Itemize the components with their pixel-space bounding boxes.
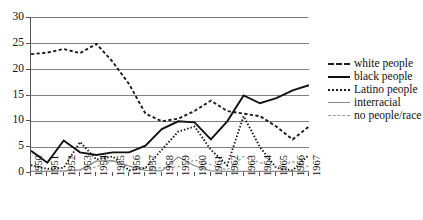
y-tick-label: 10 xyxy=(2,114,24,125)
legend-item-black-people[interactable]: black people xyxy=(328,69,423,82)
legend-item-interracial[interactable]: interracial xyxy=(328,96,423,109)
x-tick-label: 1962 xyxy=(230,155,241,176)
legend-item-label: black people xyxy=(354,70,412,82)
x-tick-mark xyxy=(144,172,145,176)
y-tick-label: 0 xyxy=(2,166,24,177)
x-tick-mark xyxy=(112,172,113,176)
x-tick-mark xyxy=(46,172,47,176)
x-tick-label: 1952 xyxy=(67,155,78,176)
x-tick-mark xyxy=(210,172,211,176)
x-tick-mark xyxy=(79,172,80,176)
x-tick-label: 1960 xyxy=(198,155,209,176)
x-tick-label: 1964 xyxy=(263,155,274,176)
chart-figure: 051015202530 195019511952195319541955195… xyxy=(0,0,423,220)
x-tick-mark xyxy=(128,172,129,176)
x-tick-mark xyxy=(95,172,96,176)
x-tick-label: 1950 xyxy=(34,155,45,176)
plot-svg xyxy=(31,18,309,173)
x-tick-label: 1965 xyxy=(279,155,290,176)
legend-item-no-people-race[interactable]: no people/race xyxy=(328,109,423,122)
x-tick-label: 1966 xyxy=(296,155,307,176)
x-tick-mark xyxy=(308,172,309,176)
x-tick-label: 1959 xyxy=(181,155,192,176)
x-tick-label: 1963 xyxy=(247,155,258,176)
legend-line-swatch-icon xyxy=(328,96,350,108)
x-tick-mark xyxy=(259,172,260,176)
y-tick-label: 5 xyxy=(2,140,24,151)
legend-item-label: interracial xyxy=(354,96,401,108)
x-tick-mark xyxy=(243,172,244,176)
y-tick-label: 15 xyxy=(2,89,24,100)
legend-item-label: white people xyxy=(354,57,413,69)
legend-item-label: no people/race xyxy=(354,109,421,121)
x-tick-label: 1951 xyxy=(50,155,61,176)
x-tick-mark xyxy=(292,172,293,176)
legend-item-label: Latino people xyxy=(354,83,418,95)
x-tick-label: 1956 xyxy=(132,155,143,176)
x-tick-mark xyxy=(30,172,31,176)
y-tick-label: 25 xyxy=(2,37,24,48)
x-tick-mark xyxy=(177,172,178,176)
plot-area xyxy=(30,17,308,172)
x-tick-label: 1961 xyxy=(214,155,225,176)
x-tick-label: 1957 xyxy=(148,155,159,176)
x-tick-label: 1953 xyxy=(83,155,94,176)
x-tick-mark xyxy=(226,172,227,176)
x-tick-mark xyxy=(194,172,195,176)
y-tick-label: 30 xyxy=(2,11,24,22)
legend-line-swatch-icon xyxy=(328,109,350,121)
x-tick-label: 1958 xyxy=(165,155,176,176)
x-tick-mark xyxy=(161,172,162,176)
x-tick-label: 1954 xyxy=(99,155,110,176)
legend-item-white-people[interactable]: white people xyxy=(328,56,423,69)
legend-line-swatch-icon xyxy=(328,57,350,69)
chart-legend: white peopleblack peopleLatino peopleint… xyxy=(328,56,423,122)
legend-line-swatch-icon xyxy=(328,70,350,82)
y-tick-label: 20 xyxy=(2,63,24,74)
x-tick-label: 1967 xyxy=(312,155,323,176)
x-tick-mark xyxy=(63,172,64,176)
x-tick-label: 1955 xyxy=(116,155,127,176)
x-tick-mark xyxy=(275,172,276,176)
legend-item-latino-people[interactable]: Latino people xyxy=(328,82,423,95)
legend-line-swatch-icon xyxy=(328,83,350,95)
series-line-black-people xyxy=(31,85,309,163)
